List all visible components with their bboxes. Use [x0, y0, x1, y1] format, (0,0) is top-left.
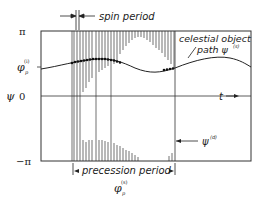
tick-phi-sup: (i) — [24, 58, 30, 64]
precession-period-label: precession period — [81, 165, 172, 176]
celestial-label-1: celestial object — [179, 33, 252, 44]
top-spin-lines — [83, 31, 174, 92]
tick-phi-sub: p — [25, 69, 29, 76]
phi-bottom-sup: (s) — [121, 179, 128, 185]
celestial-sup: (s) — [233, 43, 240, 49]
psi-d-arrow-icon — [176, 139, 181, 143]
tick-minus-pi: −π — [16, 156, 31, 167]
celestial-path — [41, 57, 251, 72]
tick-pi: π — [19, 26, 26, 37]
phi-bottom-sub: p — [122, 190, 126, 197]
t-axis-label: t — [219, 91, 224, 102]
spin-period-label: spin period — [99, 11, 155, 22]
tick-zero: 0 — [19, 91, 25, 102]
y-axis-label: ψ — [6, 90, 15, 103]
phase-diagram: spin period celestial object path ψ (s) … — [0, 0, 269, 204]
psi-d-label: ψ — [202, 136, 209, 147]
celestial-label-2: path ψ — [196, 44, 229, 55]
t-arrow-icon — [234, 94, 239, 98]
spin-period-marker — [60, 10, 95, 30]
celestial-pointer — [188, 47, 196, 58]
precession-left-arrow-icon — [74, 169, 79, 173]
psi-d-sup: (d) — [210, 134, 217, 140]
